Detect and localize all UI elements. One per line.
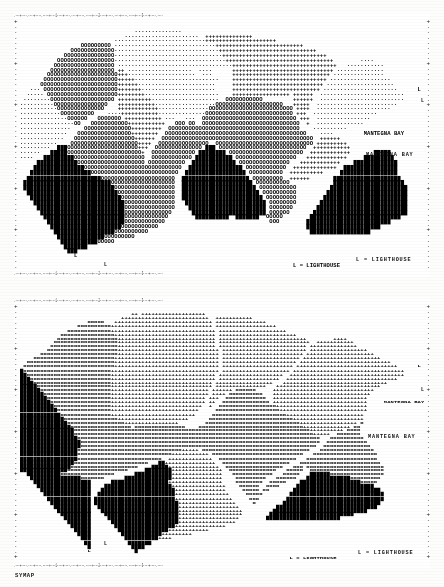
printout-sheet: .---+----.----+----.----+----1----+----.… [0, 0, 444, 587]
panel-lower-border-bottom: .---+----.----+----.----+----1----+----.… [14, 562, 163, 569]
panel-lower-border-left: + . . . . . . . + . . . . . . . + . . . … [14, 304, 19, 562]
legend-lighthouse-lower: L = LIGHTHOUSE [358, 550, 413, 556]
map-panel-upper: .---+----.----+----.----+----1----+----.… [14, 12, 430, 277]
panel-lower-border-right: + . . . . . . . + . . . . . . . + . . . … [425, 304, 430, 562]
legend-lighthouse-upper: L = LIGHTHOUSE [356, 257, 411, 263]
lower-map-character-grid: ++ +++++++++++++++++++ +++++++++++++++++… [20, 305, 424, 561]
panel-upper-border-left: + . . . . . . . + . . . . . . . + . . . … [14, 19, 19, 270]
symap-program-tag: SYMAP [15, 572, 35, 579]
lower-map-plot-area: ++ +++++++++++++++++++ +++++++++++++++++… [20, 305, 424, 561]
panel-upper-border-top: .---+----.----+----.----+----1----+----.… [14, 12, 163, 19]
lighthouse-marker-lower-left: L [104, 541, 107, 547]
bay-label-lower: MANTEGNA BAY [368, 434, 416, 440]
upper-map-plot-area: ·············· ······················ ++… [20, 20, 424, 269]
upper-map-character-grid: ·············· ······················ ++… [20, 20, 424, 269]
lighthouse-marker-upper-right: L [421, 98, 424, 104]
panel-upper-border-right: + . . . . . . . + . . . . . . . + . . . … [425, 19, 430, 270]
map-panel-lower: .---+----.----+----.----+----1----+----.… [14, 297, 430, 569]
bay-label-upper: MANTEGNA BAY [366, 152, 414, 158]
lighthouse-marker-upper-left: L [104, 262, 107, 268]
panel-lower-border-top: .---+----.----+----.----+----1----+----.… [14, 297, 163, 304]
lighthouse-marker-lower-right: L [421, 387, 424, 393]
panel-upper-border-bottom: .---+----.----+----.----+----1----+----.… [14, 270, 163, 277]
